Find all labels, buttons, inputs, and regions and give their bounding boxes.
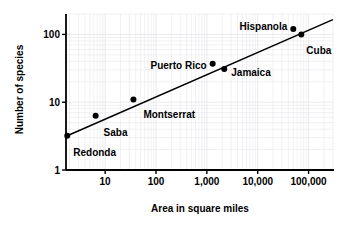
species-area-chart: Number of species Area in square miles 1… (0, 0, 356, 226)
x-tick-label: 10 (100, 176, 111, 187)
point-label-redonda: Redonda (73, 147, 116, 158)
point-label-montserrat: Montserrat (143, 109, 195, 120)
y-axis-title: Number of species (14, 30, 25, 150)
x-tick-label: 100 (148, 176, 165, 187)
x-tick-label: 100,000 (291, 176, 327, 187)
x-tick-label: 1,000 (194, 176, 219, 187)
point-label-saba: Saba (104, 127, 128, 138)
point-label-hispanola: Hispanola (0, 21, 287, 32)
y-tick-label: 10 (20, 97, 60, 108)
y-tick-label: 1 (20, 165, 60, 176)
x-axis-title: Area in square miles (66, 203, 334, 214)
point-label-cuba: Cuba (306, 45, 331, 56)
point-label-jamaica: Jamaica (231, 67, 270, 78)
x-tick-label: 10,000 (242, 176, 273, 187)
point-label-puerto-rico: Puerto Rico (0, 60, 207, 71)
